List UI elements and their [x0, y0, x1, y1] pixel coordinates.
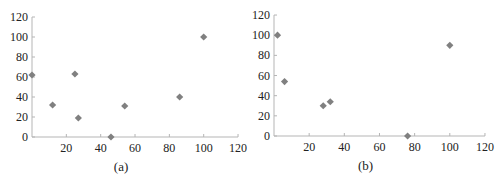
data-point-marker	[281, 78, 288, 85]
chart-caption: (a)	[114, 159, 128, 174]
data-point-marker	[49, 101, 56, 108]
y-tick-label: 100	[252, 28, 270, 42]
y-tick-label: 80	[16, 50, 28, 64]
y-tick-label: 120	[252, 8, 270, 22]
data-point-marker	[327, 98, 334, 105]
data-point-marker	[121, 102, 128, 109]
scatter-figure: 02040608010012020406080100120(a) 0204060…	[0, 0, 503, 182]
data-point-marker	[274, 32, 281, 39]
x-tick-label: 20	[60, 141, 72, 155]
scatter-plot-a: 02040608010012020406080100120(a)	[10, 10, 247, 174]
x-tick-label: 100	[441, 140, 459, 154]
x-tick-label: 80	[409, 140, 421, 154]
y-tick-label: 0	[264, 129, 270, 143]
data-point-marker	[320, 102, 327, 109]
x-tick-label: 60	[373, 140, 385, 154]
x-tick-label: 80	[163, 141, 175, 155]
y-tick-label: 100	[10, 30, 28, 44]
y-tick-label: 60	[16, 70, 28, 84]
y-tick-label: 20	[258, 109, 270, 123]
x-tick-label: 60	[129, 141, 141, 155]
scatter-plot-b: 02040608010012020406080100120(b)	[252, 8, 494, 173]
data-point-marker	[446, 42, 453, 49]
chart-caption: (b)	[358, 158, 373, 173]
data-point-marker	[71, 70, 78, 77]
y-tick-label: 60	[258, 69, 270, 83]
data-point-marker	[200, 33, 207, 40]
y-tick-label: 40	[16, 90, 28, 104]
data-point-marker	[107, 133, 114, 140]
y-tick-label: 80	[258, 48, 270, 62]
x-tick-label: 40	[338, 140, 350, 154]
x-tick-label: 100	[195, 141, 213, 155]
data-point-marker	[176, 93, 183, 100]
data-point-marker	[404, 132, 411, 139]
x-tick-label: 120	[476, 140, 494, 154]
y-tick-label: 40	[258, 89, 270, 103]
data-point-marker	[75, 114, 82, 121]
x-tick-label: 40	[95, 141, 107, 155]
y-tick-label: 0	[22, 130, 28, 144]
data-point-marker	[28, 71, 35, 78]
y-tick-label: 120	[10, 10, 28, 24]
x-tick-label: 20	[303, 140, 315, 154]
y-tick-label: 20	[16, 110, 28, 124]
x-tick-label: 120	[229, 141, 247, 155]
